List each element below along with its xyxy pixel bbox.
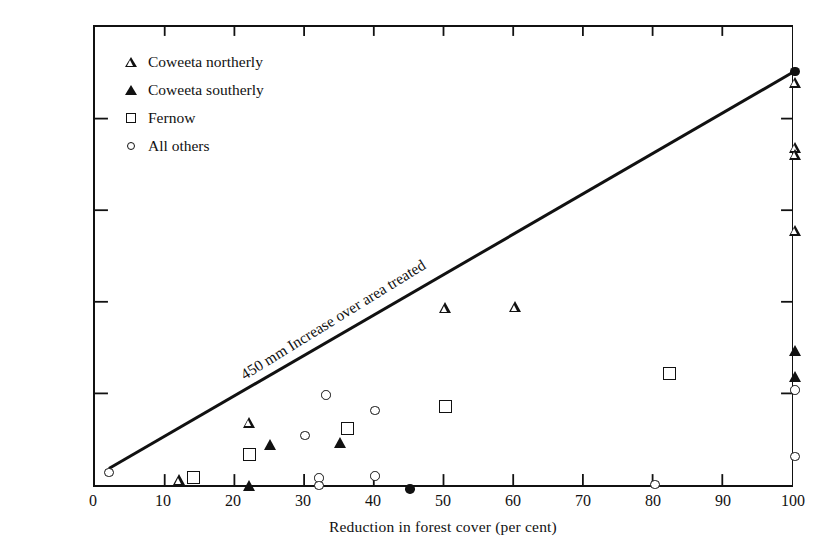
data-point (439, 400, 452, 413)
legend-marker-icon (118, 113, 144, 123)
legend-item: Fernow (118, 104, 264, 132)
x-tick-70: 70 (559, 492, 607, 510)
data-point (663, 367, 676, 380)
legend-item: Coweeta southerly (118, 76, 264, 104)
x-tick-90: 90 (699, 492, 747, 510)
x-tick-30: 30 (279, 492, 327, 510)
data-point (790, 67, 800, 77)
data-point (509, 301, 521, 312)
chart-legend: Coweeta northerlyCoweeta southerlyFernow… (118, 48, 264, 160)
data-point (789, 149, 801, 160)
data-point (789, 77, 801, 88)
x-tick-60: 60 (489, 492, 537, 510)
data-point (370, 406, 380, 416)
legend-item-label: Coweeta southerly (144, 81, 264, 99)
data-point (264, 439, 276, 450)
data-point (314, 481, 324, 491)
x-tick-20: 20 (209, 492, 257, 510)
data-point (789, 371, 801, 382)
data-point (439, 302, 451, 313)
legend-item-label: Coweeta northerly (144, 53, 263, 71)
legend-item: All others (118, 132, 264, 160)
data-point (790, 452, 800, 462)
x-axis-label: Reduction in forest cover (per cent) (93, 518, 793, 536)
legend-marker-icon (118, 142, 144, 150)
x-tick-80: 80 (629, 492, 677, 510)
data-point (405, 484, 415, 494)
data-point (789, 345, 801, 356)
legend-item-label: All others (144, 137, 210, 155)
x-tick-10: 10 (139, 492, 187, 510)
legend-marker-icon (118, 85, 144, 95)
data-point (790, 385, 800, 395)
x-tick-40: 40 (349, 492, 397, 510)
scatter-chart-figure: First year streamflow increases after tr… (0, 0, 830, 554)
data-point (334, 437, 346, 448)
legend-item: Coweeta northerly (118, 48, 264, 76)
data-point (104, 468, 114, 478)
data-point (243, 417, 255, 428)
legend-item-label: Fernow (144, 109, 195, 127)
data-point (173, 474, 185, 485)
x-tick-50: 50 (419, 492, 467, 510)
legend-marker-icon (118, 57, 144, 67)
x-tick-0: 0 (69, 492, 117, 510)
data-point (243, 480, 255, 491)
data-point (789, 225, 801, 236)
data-point (370, 471, 380, 481)
data-point (341, 422, 354, 435)
data-point (187, 471, 200, 484)
data-point (321, 390, 331, 400)
data-point (650, 480, 660, 490)
data-point (300, 431, 310, 441)
data-point (243, 448, 256, 461)
x-tick-100: 100 (769, 492, 817, 510)
